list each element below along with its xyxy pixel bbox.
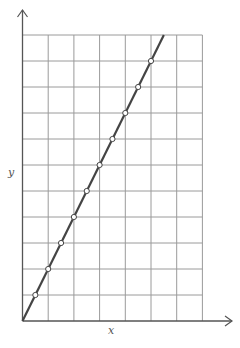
y-axis-label: y <box>8 166 14 179</box>
data-line <box>23 35 164 321</box>
data-point-marker <box>33 292 38 297</box>
data-point-marker <box>71 214 76 219</box>
data-point-marker <box>110 136 115 141</box>
data-point-marker <box>123 110 128 115</box>
x-axis-label: x <box>108 324 114 337</box>
data-point-marker <box>84 188 89 193</box>
line-chart <box>0 0 240 348</box>
data-point-marker <box>97 162 102 167</box>
data-point-marker <box>46 266 51 271</box>
data-point-marker <box>148 58 153 63</box>
data-point-marker <box>58 240 63 245</box>
data-point-marker <box>136 84 141 89</box>
